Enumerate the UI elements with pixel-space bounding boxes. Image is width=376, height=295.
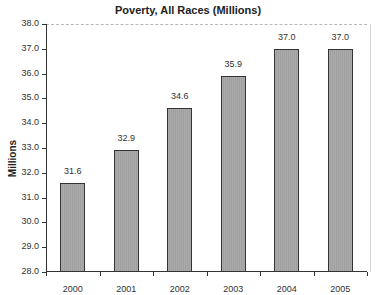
- x-tick-label: 2003: [213, 284, 253, 294]
- x-tick: [314, 272, 315, 276]
- y-tick: [42, 98, 46, 99]
- y-tick-label: 28.0: [0, 266, 39, 276]
- y-axis: [46, 24, 47, 272]
- y-tick: [42, 123, 46, 124]
- bar-value-label: 35.9: [213, 59, 253, 69]
- plot-frame-right: [370, 24, 371, 272]
- y-tick: [42, 173, 46, 174]
- x-tick-label: 2002: [160, 284, 200, 294]
- x-tick: [207, 272, 208, 276]
- bar-2005: [328, 49, 353, 272]
- plot-area: 28.029.030.031.032.033.034.035.036.037.0…: [46, 24, 367, 272]
- y-tick-label: 34.0: [0, 117, 39, 127]
- bar-2004: [274, 49, 299, 272]
- top-gridline: [46, 24, 367, 25]
- y-tick: [42, 74, 46, 75]
- y-tick: [42, 198, 46, 199]
- bar-value-label: 31.6: [53, 166, 93, 176]
- x-tick-label: 2000: [53, 284, 93, 294]
- y-tick-label: 29.0: [0, 241, 39, 251]
- x-tick-label: 2001: [106, 284, 146, 294]
- y-tick-label: 38.0: [0, 18, 39, 28]
- chart-title: Poverty, All Races (Millions): [0, 4, 376, 16]
- y-tick-label: 30.0: [0, 216, 39, 226]
- y-tick-label: 32.0: [0, 167, 39, 177]
- y-tick-label: 37.0: [0, 43, 39, 53]
- bar-value-label: 37.0: [267, 32, 307, 42]
- x-tick: [100, 272, 101, 276]
- x-tick: [367, 272, 368, 276]
- y-tick: [42, 148, 46, 149]
- y-tick-label: 35.0: [0, 92, 39, 102]
- x-tick: [153, 272, 154, 276]
- y-tick-label: 36.0: [0, 68, 39, 78]
- bar-2003: [221, 76, 246, 272]
- bar-value-label: 37.0: [320, 32, 360, 42]
- bar-2001: [114, 150, 139, 272]
- y-tick-label: 31.0: [0, 192, 39, 202]
- bar-value-label: 34.6: [160, 91, 200, 101]
- y-tick: [42, 247, 46, 248]
- bar-2002: [167, 108, 192, 272]
- bar-2000: [60, 183, 85, 272]
- y-tick-label: 33.0: [0, 142, 39, 152]
- y-tick: [42, 49, 46, 50]
- y-tick: [42, 222, 46, 223]
- x-tick: [260, 272, 261, 276]
- x-tick-label: 2005: [320, 284, 360, 294]
- bar-value-label: 32.9: [106, 133, 146, 143]
- x-tick: [46, 272, 47, 276]
- x-tick-label: 2004: [267, 284, 307, 294]
- y-tick: [42, 24, 46, 25]
